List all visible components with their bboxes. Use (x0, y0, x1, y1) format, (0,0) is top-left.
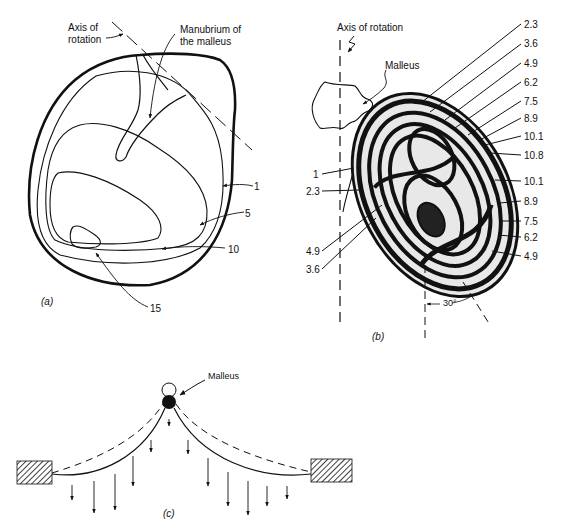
contour-1 (37, 71, 223, 263)
manubrium-label-line1: Manubrium of (180, 24, 241, 35)
fringe-label-r11: 6.2 (524, 232, 538, 243)
panel-a-drawing (29, 22, 253, 307)
fringe-label-r10: 7.5 (524, 216, 538, 227)
fringe-label-r9: 8.9 (524, 196, 538, 207)
fringe-label-l3: 3.6 (306, 264, 320, 275)
contour-label-10: 10 (228, 244, 239, 255)
malleus-label-c: Malleus (208, 371, 239, 382)
panel-b-label: (b) (372, 331, 384, 342)
fringe-label-r1: 3.6 (524, 38, 538, 49)
panel-b-drawing (312, 24, 551, 340)
right-support (311, 459, 352, 482)
fringe-label-r7: 10.8 (524, 150, 543, 161)
fringe-label-r8: 10.1 (524, 176, 543, 187)
fringe-label-l2: 4.9 (306, 246, 320, 257)
pressure-arrows (72, 419, 287, 515)
axis-of-rotation-label-a-line1: Axis of (68, 22, 98, 33)
contour-10 (50, 172, 161, 244)
fringe-label-r3: 6.2 (524, 77, 538, 88)
fringe-label-r4: 7.5 (524, 96, 538, 107)
malleus-rest (162, 383, 176, 397)
contour-5 (46, 124, 207, 251)
axis-of-rotation-label-a-line2: rotation (68, 34, 101, 45)
contour-label-5: 5 (245, 208, 251, 219)
malleus-label-b: Malleus (385, 60, 419, 71)
fringe-label-r12: 4.9 (524, 251, 538, 262)
panel-c-label: (c) (163, 508, 175, 519)
fringe-label-l1: 2.3 (306, 186, 320, 197)
panel-a-label: (a) (41, 296, 53, 307)
contour-label-15: 15 (150, 303, 161, 314)
contour-15 (70, 226, 100, 248)
fringe-label-r6: 10.1 (524, 131, 543, 142)
membrane-displaced (52, 408, 165, 475)
fringe-label-r5: 8.9 (524, 113, 538, 124)
left-support (17, 461, 52, 484)
manubrium-label-line2: the malleus (180, 36, 231, 47)
panel-c-drawing (17, 380, 352, 515)
fringe-label-r0: 2.3 (524, 19, 538, 30)
axis-of-rotation-label-b: Axis of rotation (337, 22, 403, 33)
contour-label-1: 1 (254, 181, 260, 192)
angle-label: 30° (443, 298, 457, 309)
fringe-label-l0: 1 (313, 169, 319, 180)
malleus-displaced (162, 395, 176, 409)
figure-canvas (0, 0, 566, 528)
fringe-label-r2: 4.9 (524, 58, 538, 69)
